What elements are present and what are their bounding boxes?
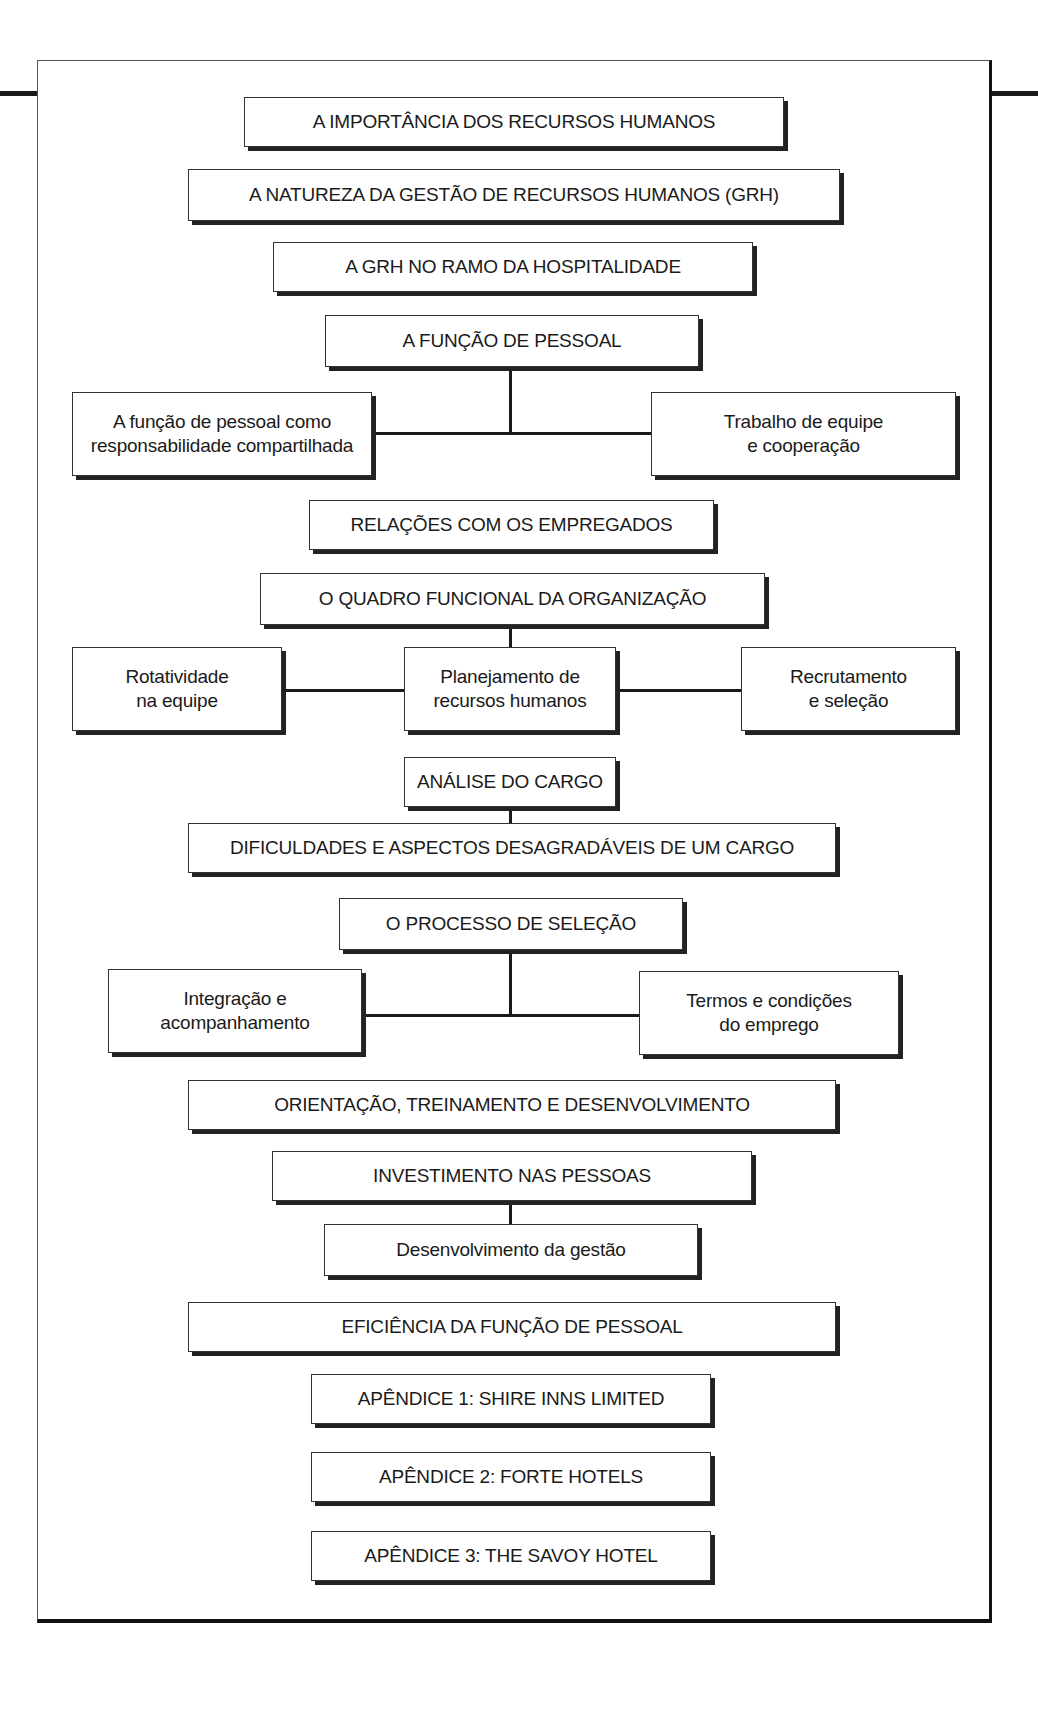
left-rule [0,91,38,96]
connector-analise-down [509,806,512,824]
node-apendice-2: APÊNDICE 2: FORTE HOTELS [311,1452,711,1502]
node-responsabilidade: A função de pessoal como responsabilidad… [72,392,372,476]
node-investimento: INVESTIMENTO NAS PESSOAS [272,1151,752,1201]
node-funcao-pessoal: A FUNÇÃO DE PESSOAL [325,315,699,367]
node-relacoes: RELAÇÕES COM OS EMPREGADOS [309,500,714,550]
node-natureza: A NATUREZA DA GESTÃO DE RECURSOS HUMANOS… [188,169,840,221]
node-grh-hospitalidade: A GRH NO RAMO DA HOSPITALIDADE [273,242,753,292]
right-rule [992,91,1038,96]
node-apendice-1: APÊNDICE 1: SHIRE INNS LIMITED [311,1374,711,1424]
connector-rotatividade [282,689,405,692]
node-recrutamento: Recrutamento e seleção [741,647,956,731]
node-orientacao: ORIENTAÇÃO, TREINAMENTO E DESENVOLVIMENT… [188,1080,836,1130]
node-planejamento: Planejamento de recursos humanos [404,647,616,731]
connector-selecao-down [509,949,512,1016]
connector-funcao-branch [372,432,652,435]
node-processo-selecao: O PROCESSO DE SELEÇÃO [339,898,683,950]
connector-recrutamento [616,689,742,692]
node-importancia: A IMPORTÂNCIA DOS RECURSOS HUMANOS [244,97,784,147]
node-analise-cargo: ANÁLISE DO CARGO [404,757,616,807]
connector-selecao-branch [362,1014,640,1017]
node-rotatividade: Rotatividade na equipe [72,647,282,731]
connector-quadro-down [509,624,512,648]
node-termos: Termos e condições do emprego [639,971,899,1055]
node-quadro-funcional: O QUADRO FUNCIONAL DA ORGANIZAÇÃO [260,573,765,625]
node-integracao: Integração e acompanhamento [108,969,362,1053]
connector-funcao-down [509,366,512,434]
node-dificuldades: DIFICULDADES E ASPECTOS DESAGRADÁVEIS DE… [188,823,836,873]
connector-investimento-down [509,1200,512,1225]
node-desenvolvimento-gestao: Desenvolvimento da gestão [324,1224,698,1276]
node-trabalho-equipe: Trabalho de equipe e cooperação [651,392,956,476]
node-eficiencia: EFICIÊNCIA DA FUNÇÃO DE PESSOAL [188,1302,836,1352]
node-apendice-3: APÊNDICE 3: THE SAVOY HOTEL [311,1531,711,1581]
